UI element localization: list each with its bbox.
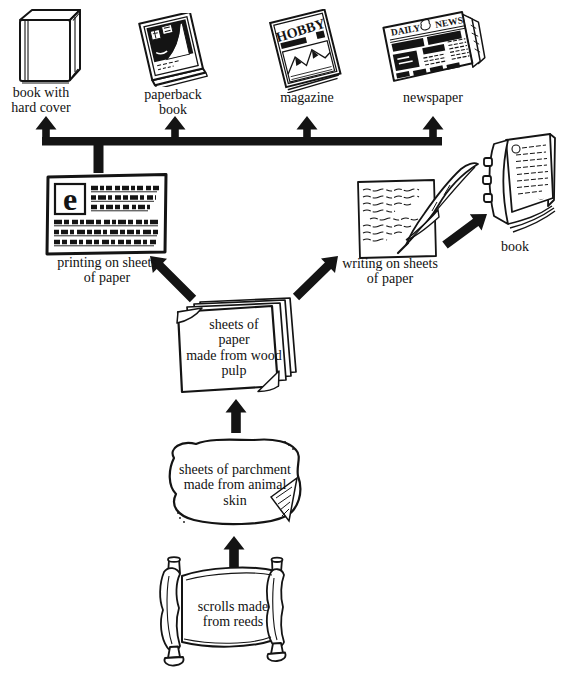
arrow-scroll-to-parchment bbox=[224, 536, 245, 567]
parchment-node-text: sheets of parchment made from animal ski… bbox=[166, 462, 304, 508]
arrow-to-newspaper bbox=[423, 116, 444, 139]
label-paperback-book: paperback book bbox=[129, 88, 217, 118]
arrow-to-paperback bbox=[165, 116, 186, 139]
label-writing-on-sheets-of-paper: writing on sheets of paper bbox=[328, 257, 452, 287]
arrow-parchment-to-paper bbox=[226, 399, 247, 433]
label-book-with-hard-cover: book with hard cover bbox=[0, 86, 83, 116]
label-magazine: magazine bbox=[263, 91, 351, 106]
arrow-to-magazine bbox=[297, 116, 318, 139]
paper-node-text: sheets of paper made from wood pulp bbox=[174, 317, 294, 379]
label-newspaper: newspaper bbox=[386, 91, 480, 106]
label-printing-on-sheets-of-paper: printing on sheets of paper bbox=[38, 256, 176, 286]
arrow-to-hardcover bbox=[36, 116, 57, 139]
scroll-node-text: scrolls made from reeds bbox=[172, 599, 294, 630]
evolution-of-writing-diagram: HOBBY DAILY NEWS bbox=[0, 0, 580, 691]
printing-to-bar-stem bbox=[94, 144, 104, 173]
label-book: book bbox=[478, 240, 552, 255]
